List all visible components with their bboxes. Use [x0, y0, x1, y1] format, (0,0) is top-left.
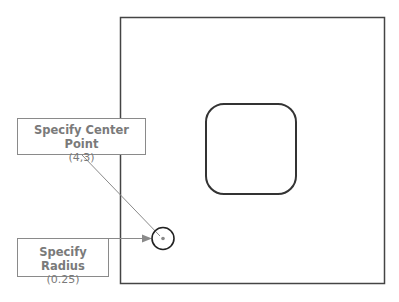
radius-arrowhead-icon — [142, 235, 152, 243]
center-point-callout: Specify Center Point (4,3) — [17, 118, 146, 155]
rounded-square-cutout — [206, 104, 296, 194]
radius-callout: Specify Radius (0.25) — [17, 238, 109, 277]
center-point-marker — [161, 237, 165, 241]
callout-title: Specify Radius — [18, 245, 108, 273]
callout-title: Specify Center Point — [18, 123, 145, 151]
callout-value: (4,3) — [18, 151, 145, 164]
callout-value: (0.25) — [18, 273, 108, 286]
outer-square — [121, 18, 385, 284]
